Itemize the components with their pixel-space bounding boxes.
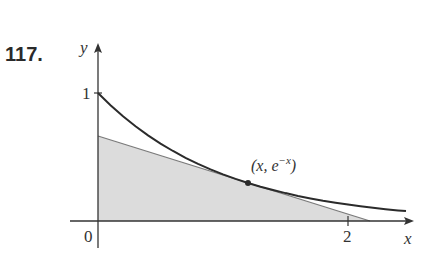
point-label-exponent: −x [279, 154, 291, 166]
point-label-prefix: (x, e [251, 157, 279, 175]
origin-label: 0 [84, 227, 93, 246]
x-tick-label-2: 2 [343, 227, 352, 246]
y-axis-label: y [78, 38, 88, 57]
point-label: (x, e−x) [251, 154, 296, 175]
x-axis-label: x [403, 229, 412, 248]
y-tick-label-1: 1 [82, 84, 91, 103]
point-label-suffix: ) [290, 157, 296, 175]
tangent-point [245, 180, 251, 186]
graph: y 1 0 2 x (x, e−x) [0, 0, 431, 278]
